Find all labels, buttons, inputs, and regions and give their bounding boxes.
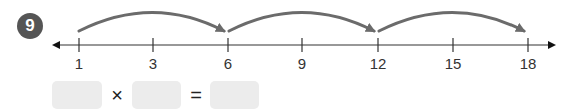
left-arrow-icon — [52, 41, 60, 49]
right-arrow-icon — [548, 41, 556, 49]
jump-arc-1 — [79, 13, 224, 32]
multiply-sign: × — [111, 81, 123, 109]
jump-arc-2 — [229, 13, 374, 32]
jump-arc-3 — [379, 13, 524, 32]
tick-label: 18 — [520, 55, 537, 72]
tick-label: 12 — [370, 55, 387, 72]
answer-box-1[interactable] — [52, 81, 102, 109]
number-line — [0, 0, 573, 80]
tick-label: 9 — [298, 55, 306, 72]
tick-label: 15 — [445, 55, 462, 72]
tick-label: 3 — [149, 55, 157, 72]
answer-box-3[interactable] — [210, 81, 259, 109]
tick-label: 1 — [75, 55, 83, 72]
answer-box-2[interactable] — [132, 81, 181, 109]
tick-label: 6 — [224, 55, 232, 72]
equals-sign: = — [190, 81, 202, 109]
